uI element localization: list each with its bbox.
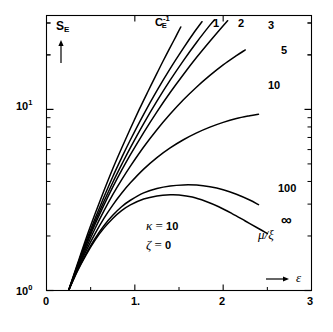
curve-label-infinity: ∞ — [281, 212, 292, 227]
x-tick-label-2: 2 — [219, 296, 225, 307]
family-variable-label: μ/ξ — [258, 228, 274, 241]
curve-label-5: 5 — [281, 45, 287, 56]
curve-label-1: 1 — [213, 18, 219, 29]
curve-10 — [69, 114, 259, 290]
y-tick-label-10e0: 100 — [16, 284, 32, 297]
curve-label-10: 10 — [268, 80, 280, 91]
zeta-value: 0 — [165, 239, 171, 251]
curve-label-3: 3 — [268, 20, 274, 31]
parameter-zeta: ζ = 0 — [146, 238, 171, 251]
y-axis-arrow-icon — [58, 40, 63, 63]
curve-label-ce-inverse: C-1E — [155, 15, 167, 29]
y-tick-mantissa: 10 — [16, 285, 28, 297]
x-tick-label-3: 3 — [307, 296, 313, 307]
curve-label-100: 100 — [278, 183, 296, 194]
figure-container: SE ε 101 100 0 1. 2 3 C-1E 1 2 3 5 10 10… — [0, 0, 333, 332]
y-axis-label-subscript: E — [64, 25, 69, 34]
kappa-value: 10 — [166, 220, 178, 232]
curve-2 — [69, 20, 215, 291]
y-tick-exponent: 0 — [28, 283, 32, 292]
curve-label-2: 2 — [238, 18, 244, 29]
x-axis-label: ε — [296, 271, 301, 284]
x-axis-arrow-icon — [266, 276, 289, 281]
kappa-equals: = — [152, 218, 166, 233]
curve-label-ce-subscript: E — [162, 21, 167, 30]
y-axis-label: SE — [56, 20, 69, 34]
curve-5 — [69, 50, 246, 291]
y-tick-exponent: 1 — [28, 98, 32, 107]
zeta-equals: = — [151, 237, 165, 252]
x-tick-label-1: 1. — [131, 296, 140, 307]
x-tick-label-0: 0 — [43, 296, 49, 307]
xi-symbol: ξ — [268, 227, 274, 242]
y-tick-mantissa: 10 — [16, 100, 28, 112]
parameter-kappa: κ = 10 — [146, 219, 178, 232]
y-axis-label-text: S — [56, 19, 64, 33]
y-tick-label-10e1: 101 — [16, 99, 32, 112]
